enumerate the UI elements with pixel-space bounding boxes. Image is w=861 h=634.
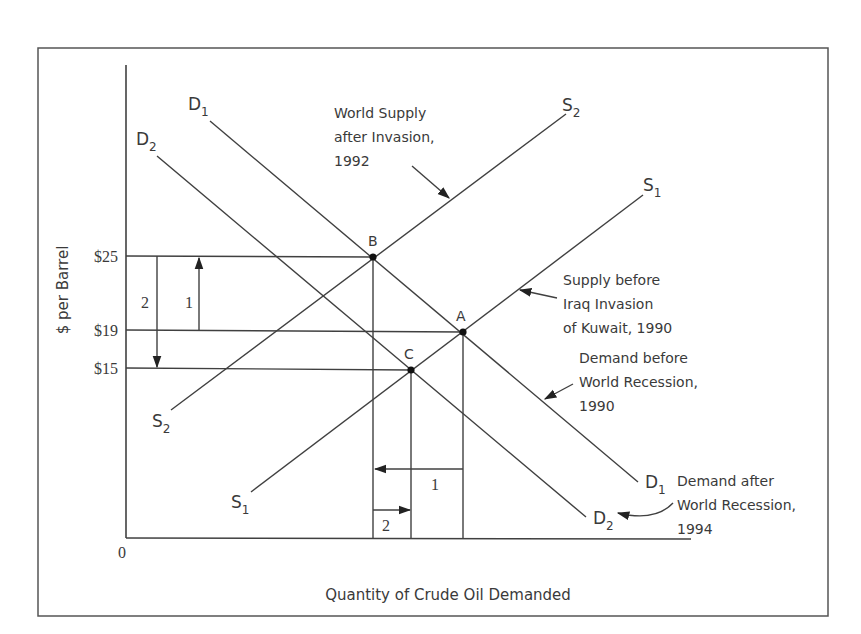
curve-d2: [157, 156, 586, 517]
price-fall-step: 2: [141, 294, 149, 311]
label-d2-top: D2: [136, 129, 157, 154]
svg-text:of Kuwait, 1990: of Kuwait, 1990: [563, 320, 672, 336]
annotation-world-supply: World Supply after Invasion, 1992: [334, 105, 449, 198]
qty-rise-step: 2: [382, 517, 390, 534]
point-c-label: C: [404, 346, 414, 362]
point-a-label: A: [456, 308, 466, 324]
label-s1-top: S1: [643, 175, 661, 200]
guide-15: [126, 368, 411, 370]
y-axis-label: $ per Barrel: [54, 246, 72, 335]
guide-19: [126, 330, 463, 332]
tick-15: $15: [94, 360, 118, 377]
svg-text:Demand before: Demand before: [579, 350, 688, 366]
point-c: [407, 366, 414, 373]
label-s2-bottom: S2: [152, 411, 170, 436]
annotation-demand-before: Demand before World Recession, 1990: [545, 350, 698, 414]
supply-demand-diagram: 0 $ per Barrel Quantity of Crude Oil Dem…: [0, 0, 861, 634]
qty-fall-step: 1: [431, 476, 439, 493]
guide-25: [126, 256, 373, 257]
svg-text:Iraq Invasion: Iraq Invasion: [563, 296, 653, 312]
point-b: [369, 253, 376, 260]
svg-text:1994: 1994: [677, 521, 713, 537]
label-s2-top: S2: [562, 95, 580, 120]
point-a: [459, 328, 466, 335]
pointer-arrow: [520, 290, 557, 298]
point-b-label: B: [368, 233, 378, 249]
tick-25: $25: [94, 248, 118, 265]
label-d2-bottom: D2: [593, 508, 614, 533]
annotation-supply-before: Supply before Iraq Invasion of Kuwait, 1…: [520, 272, 672, 336]
label-s1-bottom: S1: [231, 492, 249, 517]
svg-text:World Supply: World Supply: [334, 105, 426, 121]
label-d1-top: D1: [188, 94, 209, 119]
x-axis: [126, 538, 691, 539]
svg-text:World Recession,: World Recession,: [579, 374, 698, 390]
svg-text:1992: 1992: [334, 153, 370, 169]
price-rise-step: 1: [185, 294, 193, 311]
x-axis-label: Quantity of Crude Oil Demanded: [325, 586, 571, 604]
svg-text:Demand after: Demand after: [677, 473, 774, 489]
origin-label: 0: [118, 544, 126, 561]
svg-text:Supply before: Supply before: [563, 272, 660, 288]
pointer-arrow: [412, 166, 449, 198]
pointer-arrow: [545, 384, 573, 399]
svg-text:after Invasion,: after Invasion,: [334, 129, 435, 145]
curve-s1: [251, 195, 643, 492]
label-d1-bottom: D1: [645, 472, 666, 497]
tick-19: $19: [94, 322, 118, 339]
pointer-curve-arrow: [618, 503, 673, 516]
svg-text:1990: 1990: [579, 398, 615, 414]
svg-text:World Recession,: World Recession,: [677, 497, 796, 513]
